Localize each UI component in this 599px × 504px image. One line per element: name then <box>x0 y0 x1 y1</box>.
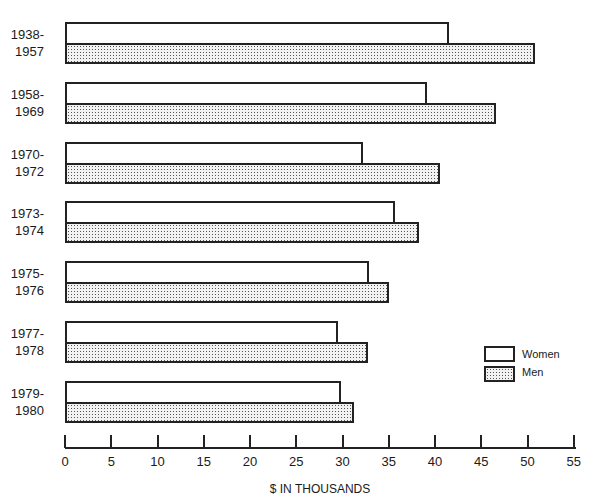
category-label: 1975-1976 <box>0 265 44 299</box>
x-tick <box>157 435 159 448</box>
bar-women <box>65 22 449 43</box>
x-tick <box>295 435 297 448</box>
x-tick-label: 30 <box>328 454 358 469</box>
bar-women <box>65 381 341 402</box>
bar-men <box>65 402 354 423</box>
x-tick <box>203 435 205 448</box>
x-tick-label: 50 <box>513 454 543 469</box>
x-tick-label: 10 <box>143 454 173 469</box>
x-tick-label: 5 <box>96 454 126 469</box>
x-tick-label: 40 <box>420 454 450 469</box>
x-tick <box>527 435 529 448</box>
legend-label-men: Men <box>522 366 543 378</box>
x-axis-label: $ IN THOUSANDS <box>0 482 599 496</box>
category-label: 1938-1957 <box>0 26 44 60</box>
bar-men <box>65 163 440 184</box>
x-tick <box>388 435 390 448</box>
bar-men <box>65 282 389 303</box>
x-tick-label: 25 <box>281 454 311 469</box>
legend-swatch-men <box>484 366 515 382</box>
x-tick-label: 15 <box>189 454 219 469</box>
bar-women <box>65 142 363 163</box>
category-label: 1958-1969 <box>0 86 44 120</box>
x-tick <box>480 435 482 448</box>
x-tick <box>249 435 251 448</box>
category-label: 1973-1974 <box>0 205 44 239</box>
x-tick <box>110 435 112 448</box>
x-tick <box>434 435 436 448</box>
x-tick <box>342 435 344 448</box>
x-tick <box>64 435 66 448</box>
legend-swatch-women <box>484 346 515 362</box>
x-tick-label: 35 <box>374 454 404 469</box>
bar-women <box>65 261 369 282</box>
bar-chart: 1938-19571958-19691970-19721973-19741975… <box>0 0 599 504</box>
bar-women <box>65 82 427 103</box>
legend-label-women: Women <box>522 348 560 360</box>
x-tick-label: 55 <box>559 454 589 469</box>
category-label: 1979-1980 <box>0 385 44 419</box>
category-label: 1970-1972 <box>0 146 44 180</box>
x-tick-label: 0 <box>50 454 80 469</box>
bar-men <box>65 222 419 243</box>
x-axis-line <box>65 447 576 449</box>
x-tick <box>573 435 575 448</box>
bar-men <box>65 103 496 124</box>
bar-men <box>65 43 535 64</box>
x-tick-label: 20 <box>235 454 265 469</box>
category-label: 1977-1978 <box>0 325 44 359</box>
bar-women <box>65 321 338 342</box>
bar-men <box>65 342 368 363</box>
bar-women <box>65 201 395 222</box>
x-tick-label: 45 <box>466 454 496 469</box>
